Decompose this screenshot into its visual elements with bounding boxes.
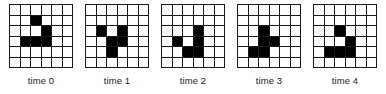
grid-cell-empty [325,5,335,15]
grid-cell-empty [42,58,52,68]
grid-cell-empty [215,26,225,36]
grid-cell-empty [238,37,248,47]
grid-cell-empty [86,5,96,15]
grid-cell-empty [162,26,172,36]
grid-cell-filled [118,37,128,47]
grid-cell-filled [173,37,183,47]
grid-cell-empty [346,16,356,26]
grid-cell-empty [86,58,96,68]
grid-cell-empty [356,47,366,57]
grid-cell-empty [162,5,172,15]
grid-cell-empty [162,47,172,57]
grid-frame: time 3 [234,4,304,86]
grid-cell-filled [21,37,31,47]
frame-label: time 3 [256,75,282,86]
grid-cell-empty [204,16,214,26]
grid-cell-empty [346,26,356,36]
grid-cell-empty [63,58,73,68]
grid-cell-filled [259,47,269,57]
grid-cell-empty [86,37,96,47]
grid-cell-empty [97,37,107,47]
grid-cell-empty [291,37,301,47]
grid-cell-empty [314,16,324,26]
grid-cell-empty [183,58,193,68]
grid-cell-empty [238,5,248,15]
grid-cell-empty [162,58,172,68]
grid-cell-empty [346,5,356,15]
grid-cell-filled [31,37,41,47]
frame-label: time 2 [180,75,206,86]
grid-cell-empty [335,16,345,26]
grid-cell-empty [238,16,248,26]
grid-cell-empty [280,37,290,47]
grid-cell-filled [194,37,204,47]
grid-cell-empty [10,37,20,47]
grid-cell-filled [42,26,52,36]
grid-cell-empty [52,37,62,47]
grid-cell-empty [183,26,193,36]
grid-cell-empty [335,5,345,15]
grid-cell-empty [162,16,172,26]
grid-cell-empty [280,16,290,26]
grid-cell-empty [280,5,290,15]
grid-cell-empty [107,58,117,68]
grid-cell-empty [356,26,366,36]
grid-cell-filled [259,26,269,36]
grid-cell-filled [194,47,204,57]
grid-cell-empty [128,37,138,47]
frame-label: time 0 [28,75,54,86]
grid-cell-empty [31,47,41,57]
grid-cell-empty [42,5,52,15]
grid-cell-empty [52,47,62,57]
grid-frame: time 1 [82,4,152,86]
grid-cell-empty [31,26,41,36]
grid-cell-empty [97,5,107,15]
grid-cell-empty [314,47,324,57]
life-grid [313,4,377,68]
grid-cell-empty [139,16,149,26]
grid-cell-empty [52,58,62,68]
grid-cell-empty [128,58,138,68]
grid-cell-empty [270,47,280,57]
grid-cell-empty [367,16,377,26]
grid-cell-empty [128,5,138,15]
grid-cell-empty [314,37,324,47]
grid-cell-filled [335,47,345,57]
grid-frame: time 0 [6,4,76,86]
grid-cell-empty [52,26,62,36]
grid-cell-empty [31,58,41,68]
grid-cell-empty [173,5,183,15]
grid-cell-empty [52,16,62,26]
grid-cell-empty [118,5,128,15]
grid-cell-filled [249,47,259,57]
grid-cell-empty [10,5,20,15]
grid-cell-empty [204,26,214,36]
glider-sequence-figure: time 0time 1time 2time 3time 4 [0,0,386,94]
grid-cell-empty [356,37,366,47]
grid-cell-empty [367,5,377,15]
grid-cell-empty [314,26,324,36]
grid-cell-empty [204,37,214,47]
grid-cell-empty [173,47,183,57]
grid-cell-filled [97,26,107,36]
grid-cell-filled [194,26,204,36]
grid-cell-empty [21,5,31,15]
grid-cell-filled [325,47,335,57]
grid-cell-empty [291,58,301,68]
grid-cell-empty [249,37,259,47]
grid-cell-empty [162,37,172,47]
grid-cell-empty [238,58,248,68]
grid-cell-empty [215,5,225,15]
grid-cell-empty [291,26,301,36]
grid-cell-empty [97,16,107,26]
grid-cell-empty [63,5,73,15]
grid-cell-empty [259,16,269,26]
grid-cell-empty [128,26,138,36]
grid-cell-empty [183,5,193,15]
grid-cell-empty [10,26,20,36]
grid-cell-empty [335,37,345,47]
grid-cell-empty [118,16,128,26]
grid-frame: time 4 [310,4,380,86]
grid-cell-empty [325,16,335,26]
grid-cell-empty [215,16,225,26]
